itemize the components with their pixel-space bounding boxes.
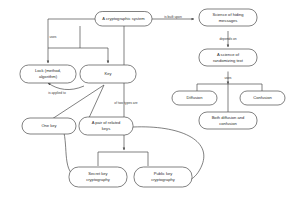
node-label-confusion: Confusion (253, 95, 272, 100)
node-label-science-random-1: A science of (217, 52, 240, 57)
node-label-pair-1: A pair of related (92, 120, 121, 125)
edge-label-uses-system: uses (50, 35, 57, 39)
edge-label-uses-random: uses (225, 76, 232, 80)
node-label-science-random-2: randomizing text (213, 58, 244, 63)
edge-label-is-applied-to: is applied to (48, 91, 66, 95)
node-label-secret-2: cryptography (86, 177, 111, 182)
edge-label-depends-on: depends on (219, 37, 236, 41)
node-key[interactable]: Key (80, 65, 136, 83)
edge-label-of-two-types-are: of two types are (114, 101, 137, 105)
edge-key-to-lock (48, 83, 84, 90)
node-secret-key-crypto[interactable]: Secret key cryptography (69, 167, 127, 187)
concept-map-diagram: is built upon depends on uses uses is ap… (0, 0, 293, 205)
node-label-one-key: One key (41, 123, 57, 128)
node-label-science-hiding-2: messages (219, 18, 238, 23)
edge-system-uses-elbow (48, 19, 95, 48)
node-label-crypto-system: A cryptographic system (102, 16, 145, 21)
diagram-canvas: is built upon depends on uses uses is ap… (0, 0, 293, 205)
node-label-lock-2: algorithm) (39, 74, 58, 79)
node-label-science-hiding-1: Science of hiding (212, 12, 244, 17)
node-label-lock-1: Lock (method, (35, 68, 61, 73)
node-crypto-system[interactable]: A cryptographic system (95, 12, 152, 27)
node-confusion[interactable]: Confusion (240, 91, 285, 105)
node-lock[interactable]: Lock (method, algorithm) (20, 65, 76, 83)
node-label-secret-1: Secret key (88, 171, 108, 176)
node-label-diffusion: Diffusion (187, 95, 204, 100)
node-label-key: Key (104, 71, 112, 76)
node-label-both-1: Both diffusion and (212, 115, 245, 120)
node-label-pair-2: keys (102, 126, 110, 131)
node-science-hiding[interactable]: Science of hiding messages (199, 9, 257, 26)
edge-label-is-built-upon: is built upon (164, 15, 182, 19)
node-label-public-1: Public key (154, 171, 174, 176)
node-diffusion[interactable]: Diffusion (172, 91, 217, 105)
node-public-key-crypto[interactable]: Public key cryptography (134, 167, 192, 187)
node-label-public-2: cryptography (151, 177, 176, 182)
node-one-key[interactable]: One key (22, 118, 76, 134)
node-science-random[interactable]: A science of randomizing text (199, 49, 257, 66)
node-pair-related-keys[interactable]: A pair of related keys (79, 117, 133, 135)
node-label-both-2: confusion (219, 121, 237, 126)
node-both-diffusion-confusion[interactable]: Both diffusion and confusion (199, 112, 257, 129)
